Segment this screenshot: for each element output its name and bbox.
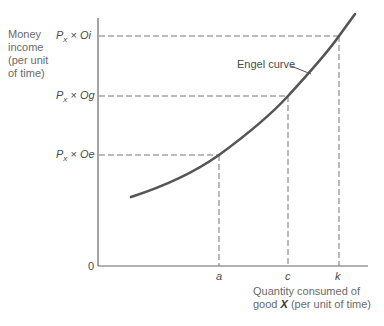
engel-curve: [131, 14, 355, 197]
y-tick-oe: Px × Oe: [56, 148, 95, 165]
x-label-prefix: good: [253, 298, 281, 310]
tick-mult: ×: [67, 148, 80, 160]
y-tick-og: Px × Og: [56, 89, 95, 106]
x-label-suffix: (per unit of time): [288, 298, 371, 310]
x-tick-k: k: [335, 270, 341, 282]
y-tick-oi: Px × Oi: [56, 29, 91, 46]
x-label-var: X: [281, 298, 288, 310]
x-axis-label: Quantity consumed of good X (per unit of…: [253, 285, 383, 311]
x-axis-label-line2: good X (per unit of time): [253, 298, 383, 311]
engel-curve-label: Engel curve: [237, 58, 295, 71]
y-axis-label-line: (per unit: [8, 54, 68, 67]
x-tick-c: c: [285, 270, 291, 282]
tick-mult: ×: [67, 89, 80, 101]
tick-mult: ×: [67, 29, 80, 41]
tick-value: Og: [80, 89, 95, 101]
y-axis-label-line: of time): [8, 67, 68, 80]
origin-label: 0: [88, 260, 94, 273]
tick-value: Oi: [80, 29, 91, 41]
tick-value: Oe: [80, 148, 95, 160]
x-tick-a: a: [216, 270, 222, 282]
x-axis-label-line1: Quantity consumed of: [253, 285, 383, 298]
